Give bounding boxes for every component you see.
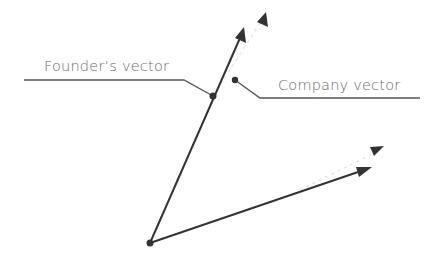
company-vector-label: Company vector [278, 77, 400, 93]
vector-diagram [0, 0, 442, 263]
founder-vector-label: Founder’s vector [44, 58, 169, 74]
founder-leader-line [24, 80, 213, 96]
company-vector-shaft [150, 171, 361, 243]
origin-dot [147, 240, 154, 247]
company-dot [232, 77, 238, 83]
founder-vector-arrowhead-icon [235, 27, 246, 43]
company-vector-arrowhead-icon [356, 167, 372, 177]
founder-dot [210, 93, 217, 100]
company-ghost-arrowhead-icon [370, 146, 384, 156]
